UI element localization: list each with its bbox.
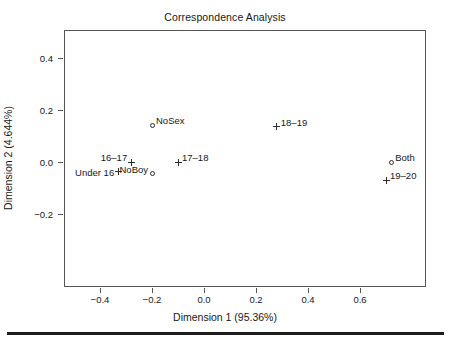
x-tick-label: 0.2: [249, 294, 262, 305]
x-tick-label: 0.6: [353, 294, 366, 305]
data-point-label: Both: [395, 153, 415, 163]
y-tick-label: 0.0: [40, 157, 53, 168]
x-tick: [360, 288, 361, 293]
x-tick-label: −0.4: [91, 294, 110, 305]
data-point-label: Under 16: [75, 168, 114, 178]
y-tick: [58, 214, 63, 215]
chart-title: Correspondence Analysis: [0, 11, 450, 23]
correspondence-analysis-figure: Correspondence Analysis −0.4−0.20.00.20.…: [0, 0, 450, 347]
data-point-label: 16–17: [101, 153, 127, 163]
x-tick-label: −0.2: [143, 294, 162, 305]
y-tick: [58, 110, 63, 111]
x-tick: [152, 288, 153, 293]
bottom-divider-rule: [7, 332, 444, 335]
y-tick-label: 0.4: [40, 53, 53, 64]
y-tick: [58, 58, 63, 59]
x-tick-label: 0.0: [197, 294, 210, 305]
y-tick-label: −0.2: [34, 209, 53, 220]
data-point-label: 17–18: [182, 153, 208, 163]
data-point-label: NoSex: [156, 116, 185, 126]
y-tick: [58, 162, 63, 163]
x-tick: [100, 288, 101, 293]
x-tick: [256, 288, 257, 293]
data-point-label: 18–19: [281, 118, 307, 128]
x-tick: [308, 288, 309, 293]
x-tick-label: 0.4: [301, 294, 314, 305]
data-point-label: NoBoy: [119, 165, 148, 175]
x-tick: [204, 288, 205, 293]
y-tick-label: 0.2: [40, 105, 53, 116]
data-point-label: 19–20: [390, 171, 416, 181]
x-axis-title: Dimension 1 (95.36%): [0, 311, 450, 323]
y-axis-title: Dimension 2 (4.644%): [2, 106, 14, 210]
